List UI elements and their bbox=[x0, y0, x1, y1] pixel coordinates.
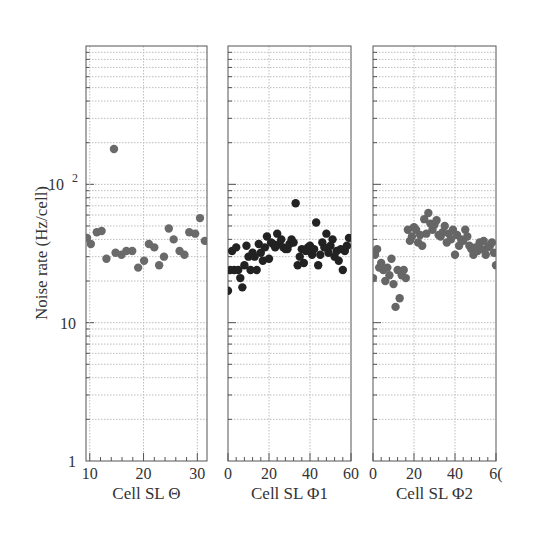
data-point bbox=[238, 283, 246, 291]
data-point bbox=[201, 237, 209, 245]
x-tick-label: 0 bbox=[224, 465, 232, 482]
data-point bbox=[451, 250, 459, 258]
y-tick-exponent: 2 bbox=[72, 171, 78, 185]
panel-2: 0204060Cell SL Φ1 bbox=[224, 46, 359, 503]
x-tick-label: 20 bbox=[261, 465, 277, 482]
data-point bbox=[110, 145, 118, 153]
data-point bbox=[395, 294, 403, 302]
x-tick-label: 30 bbox=[189, 465, 205, 482]
data-point bbox=[155, 261, 163, 269]
data-point bbox=[418, 242, 426, 250]
x-tick-label: 60 bbox=[343, 465, 359, 482]
data-point bbox=[265, 255, 273, 263]
data-point bbox=[289, 238, 297, 246]
x-tick-label: 0 bbox=[369, 465, 377, 482]
data-point bbox=[387, 255, 395, 263]
data-point bbox=[402, 274, 410, 282]
data-point bbox=[463, 232, 471, 240]
data-point bbox=[335, 257, 343, 265]
data-point bbox=[253, 266, 261, 274]
panel-frame bbox=[86, 46, 207, 461]
y-axis-title: Noise rate (Hz/cell) bbox=[32, 186, 51, 320]
data-point bbox=[150, 243, 158, 251]
data-points bbox=[83, 145, 209, 272]
data-point bbox=[385, 271, 393, 279]
panels: 102030Cell SL Θ0204060Cell SL Φ1020406(C… bbox=[82, 46, 503, 503]
data-point bbox=[488, 238, 496, 246]
data-point bbox=[339, 266, 347, 274]
x-axis-title: Cell SL Θ bbox=[112, 484, 180, 503]
data-point bbox=[291, 199, 299, 207]
data-point bbox=[490, 249, 498, 257]
data-point bbox=[314, 261, 322, 269]
data-point bbox=[134, 263, 142, 271]
x-axis-title: Cell SL Φ1 bbox=[251, 484, 328, 503]
data-point bbox=[373, 245, 381, 253]
data-point bbox=[169, 235, 177, 243]
x-tick-label: 10 bbox=[82, 465, 98, 482]
data-point bbox=[328, 235, 336, 243]
data-point bbox=[345, 234, 353, 242]
panel-1: 102030Cell SL Θ bbox=[82, 46, 209, 503]
data-point bbox=[369, 274, 377, 282]
y-tick-label: 1 bbox=[68, 453, 76, 470]
data-point bbox=[97, 227, 105, 235]
data-point bbox=[424, 209, 432, 217]
data-point bbox=[160, 252, 168, 260]
data-point bbox=[312, 218, 320, 226]
data-points bbox=[369, 209, 500, 311]
y-tick-label: 10 bbox=[48, 176, 64, 193]
data-point bbox=[128, 247, 136, 255]
data-point bbox=[316, 250, 324, 258]
data-point bbox=[87, 240, 95, 248]
data-point bbox=[196, 214, 204, 222]
data-point bbox=[389, 280, 397, 288]
data-point bbox=[180, 250, 188, 258]
y-tick-label: 10 bbox=[60, 315, 76, 332]
data-point bbox=[277, 235, 285, 243]
data-point bbox=[224, 287, 232, 295]
data-point bbox=[343, 242, 351, 250]
x-tick-label: 40 bbox=[447, 465, 463, 482]
data-point bbox=[242, 242, 250, 250]
data-point bbox=[492, 261, 500, 269]
data-point bbox=[191, 229, 199, 237]
noise-rate-chart: Noise rate (Hz/cell) 110102 102030Cell S… bbox=[0, 0, 533, 538]
data-point bbox=[236, 274, 244, 282]
y-axis-tick-labels: 110102 bbox=[48, 171, 78, 470]
data-point bbox=[140, 257, 148, 265]
x-tick-label: 20 bbox=[406, 465, 422, 482]
data-point bbox=[400, 266, 408, 274]
data-point bbox=[322, 229, 330, 237]
data-point bbox=[102, 255, 110, 263]
x-tick-label: 6( bbox=[489, 465, 502, 483]
x-tick-label: 20 bbox=[136, 465, 152, 482]
x-axis-title: Cell SL Φ2 bbox=[396, 484, 473, 503]
data-point bbox=[165, 224, 173, 232]
x-tick-label: 40 bbox=[302, 465, 318, 482]
data-point bbox=[300, 259, 308, 267]
data-point bbox=[441, 222, 449, 230]
data-point bbox=[482, 250, 490, 258]
data-point bbox=[432, 216, 440, 224]
data-point bbox=[383, 263, 391, 271]
data-point bbox=[391, 303, 399, 311]
data-point bbox=[232, 243, 240, 251]
panel-3: 020406(Cell SL Φ2 bbox=[369, 46, 503, 503]
